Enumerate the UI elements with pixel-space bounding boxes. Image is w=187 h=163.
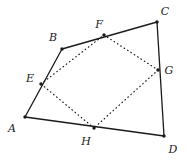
inner-quadrilateral-efgh <box>41 35 158 128</box>
point-dot-b <box>60 47 63 50</box>
geometry-figure: A B C D E F G H <box>0 0 187 163</box>
vertex-label-b: B <box>49 32 57 43</box>
point-dot-a <box>23 115 26 118</box>
point-dot-g <box>156 68 159 71</box>
outer-quadrilateral-abcd <box>25 22 164 136</box>
point-dot-c <box>155 20 158 23</box>
point-dot-f <box>102 33 105 36</box>
point-dot-e <box>39 82 42 85</box>
vertex-label-c: C <box>161 6 169 17</box>
point-dot-d <box>162 134 165 137</box>
vertex-label-h: H <box>81 136 91 147</box>
edge-gh <box>94 70 158 128</box>
point-dot-h <box>92 126 95 129</box>
edge-fg <box>104 35 158 70</box>
vertex-label-e: E <box>26 73 34 84</box>
vertex-label-d: D <box>169 144 178 155</box>
edge-bc <box>62 22 157 49</box>
edge-cd <box>157 22 164 136</box>
vertex-label-f: F <box>95 19 103 30</box>
vertex-label-g: G <box>165 65 174 76</box>
vertex-label-a: A <box>8 123 16 134</box>
edge-he <box>41 84 94 128</box>
